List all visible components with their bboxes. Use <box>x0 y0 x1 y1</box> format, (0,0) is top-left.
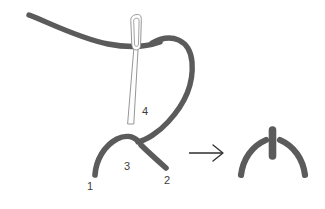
stitch-diagram: 1 2 3 4 <box>0 0 325 209</box>
label-point-3: 3 <box>124 160 130 172</box>
label-point-4: 4 <box>142 105 148 117</box>
needle-eye-slot <box>134 18 139 46</box>
working-thread-loop <box>138 38 192 142</box>
result-left-arm <box>241 140 266 175</box>
left-stitch-arm <box>95 137 138 175</box>
result-right-arm <box>280 140 305 175</box>
progress-arrow <box>189 145 223 161</box>
label-point-2: 2 <box>164 174 170 186</box>
label-point-1: 1 <box>87 180 93 192</box>
right-stitch-arm <box>141 145 166 168</box>
stitch-illustration: 1 2 3 4 <box>0 0 325 209</box>
